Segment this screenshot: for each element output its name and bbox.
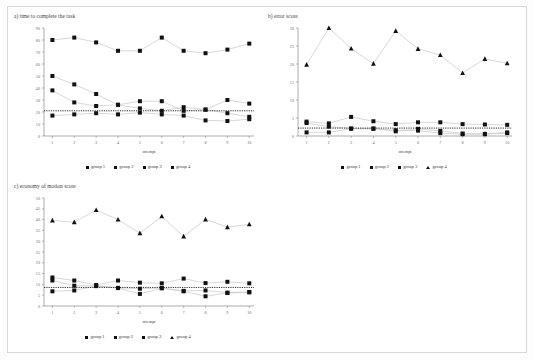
chart-c-legend: group 1 group 2 group 3 group 4 [14,335,262,340]
legend-item-group-4: group 4 [170,335,190,340]
svg-text:10: 10 [247,310,251,315]
legend-label: group 4 [177,335,191,340]
svg-text:7: 7 [439,140,441,145]
svg-text:35: 35 [36,228,40,233]
svg-text:30: 30 [36,239,40,244]
square-marker-icon [171,166,174,169]
svg-text:4: 4 [117,140,120,145]
legend-item-group-1: group 1 [85,335,104,340]
svg-text:5: 5 [395,140,397,145]
svg-text:90: 90 [36,26,40,31]
legend-item-group-3: group 3 [398,165,417,170]
svg-text:10: 10 [36,122,40,127]
square-marker-icon [341,166,344,169]
chart-c-title: c) economy of motion score [14,183,76,189]
svg-text:8: 8 [204,310,206,315]
svg-text:30: 30 [36,98,40,103]
legend-label: group 2 [119,335,133,340]
legend-item-group-2: group 2 [114,165,133,170]
svg-text:0: 0 [38,134,40,139]
svg-text:attempt: attempt [398,149,412,154]
svg-text:3: 3 [95,140,97,145]
chart-c-plot: 0510152025303540455012345678910attempt [14,192,262,332]
chart-b-plot: 05101520253012345678910attempt [268,22,520,162]
svg-text:attempt: attempt [142,149,156,154]
svg-text:80: 80 [36,38,40,43]
chart-b-panel: b) error score 05101520253012345678910at… [268,13,520,181]
svg-text:6: 6 [161,310,163,315]
svg-text:1: 1 [51,310,53,315]
legend-item-group-1: group 1 [341,165,360,170]
svg-text:10: 10 [290,98,294,103]
svg-text:1: 1 [51,140,53,145]
svg-text:15: 15 [36,271,40,276]
svg-text:4: 4 [372,140,375,145]
svg-text:2: 2 [73,310,75,315]
square-marker-icon [398,166,401,169]
triangle-marker-icon [170,336,174,339]
legend-label: group 3 [148,165,162,170]
svg-text:3: 3 [350,140,352,145]
svg-text:15: 15 [290,80,294,85]
square-marker-icon [114,336,117,339]
chart-a-panel: a) time to complete the task 01020304050… [14,13,262,181]
legend-item-group-1: group 1 [86,165,105,170]
legend-label: group 3 [147,335,161,340]
svg-text:8: 8 [204,140,206,145]
page-frame: a) time to complete the task 01020304050… [7,6,527,353]
svg-text:0: 0 [38,304,40,309]
legend-item-group-3: group 3 [143,165,162,170]
svg-text:attempt: attempt [142,319,156,324]
svg-text:10: 10 [36,282,40,287]
square-marker-icon [142,336,145,339]
legend-item-group-3: group 3 [142,335,161,340]
legend-item-group-2: group 2 [114,335,133,340]
chart-a-legend: group 1 group 2 group 3 group 4 [14,165,262,170]
svg-text:9: 9 [226,310,228,315]
chart-a-title: a) time to complete the task [14,13,75,19]
svg-text:8: 8 [462,140,464,145]
legend-label: group 3 [403,165,417,170]
svg-text:2: 2 [328,140,330,145]
svg-text:6: 6 [417,140,419,145]
svg-text:45: 45 [36,206,40,211]
square-marker-icon [86,166,89,169]
svg-text:20: 20 [36,110,40,115]
svg-text:7: 7 [183,140,185,145]
legend-label: group 2 [375,165,389,170]
svg-text:40: 40 [36,217,40,222]
svg-text:7: 7 [183,310,185,315]
svg-text:20: 20 [290,62,294,67]
svg-text:10: 10 [247,140,251,145]
svg-text:70: 70 [36,50,40,55]
svg-text:5: 5 [139,310,141,315]
svg-text:4: 4 [117,310,120,315]
figure-page: a) time to complete the task 01020304050… [0,0,534,360]
svg-text:40: 40 [36,86,40,91]
legend-label: group 4 [176,165,190,170]
square-marker-icon [114,166,117,169]
svg-text:50: 50 [36,74,40,79]
svg-text:5: 5 [292,116,294,121]
svg-text:5: 5 [139,140,141,145]
legend-item-group-4: group 4 [171,165,190,170]
legend-label: group 4 [433,165,447,170]
chart-c-svg: 0510152025303540455012345678910attempt [14,192,262,332]
chart-b-legend: group 1 group 2 group 3 group 4 [268,165,520,170]
square-marker-icon [85,336,88,339]
legend-label: group 2 [119,165,133,170]
svg-text:25: 25 [36,250,40,255]
chart-b-title: b) error score [268,13,298,19]
svg-text:20: 20 [36,260,40,265]
svg-text:0: 0 [292,134,294,139]
svg-text:3: 3 [95,310,97,315]
chart-b-svg: 05101520253012345678910attempt [268,22,520,162]
svg-text:6: 6 [161,140,163,145]
chart-c-panel: c) economy of motion score 0510152025303… [14,183,262,351]
svg-text:5: 5 [38,293,40,298]
chart-a-plot: 010203040506070809012345678910attempt [14,22,262,162]
svg-text:10: 10 [505,140,509,145]
svg-text:30: 30 [290,26,294,31]
triangle-marker-icon [426,166,430,169]
svg-text:2: 2 [73,140,75,145]
